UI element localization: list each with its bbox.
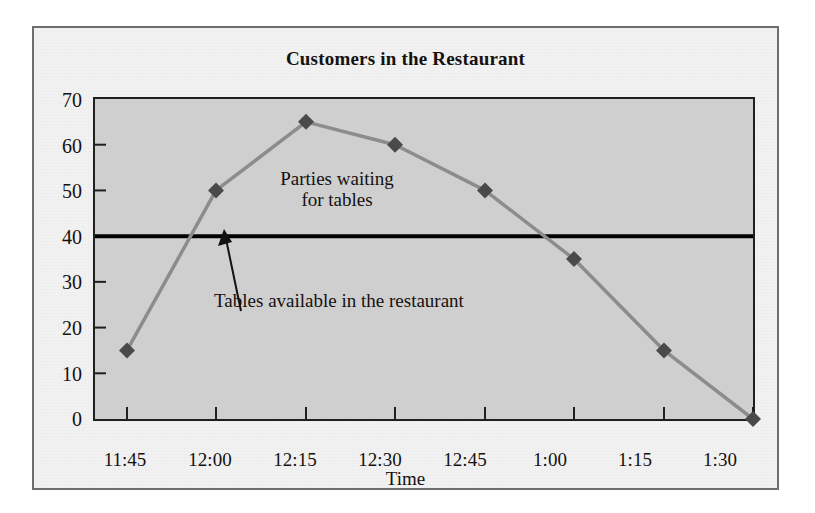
y-tick-label-70: 70 xyxy=(38,90,82,110)
x-tick-label-7: 1:30 xyxy=(675,450,765,469)
y-tick-label-30: 30 xyxy=(38,272,82,292)
x-axis-tick-marks xyxy=(127,407,753,419)
y-tick-label-40: 40 xyxy=(38,227,82,247)
y-tick-label-10: 10 xyxy=(38,364,82,384)
x-tick-label-2: 12:15 xyxy=(250,450,340,469)
y-tick-label-50: 50 xyxy=(38,181,82,201)
x-tick-label-3: 12:30 xyxy=(335,450,425,469)
plot-svg xyxy=(95,99,753,419)
annotation-threshold-label: Tables available in the restaurant xyxy=(174,290,504,311)
x-tick-label-5: 1:00 xyxy=(505,450,595,469)
series-marker-group xyxy=(119,114,761,427)
annotation-series-label: Parties waiting for tables xyxy=(232,168,442,211)
y-tick-label-60: 60 xyxy=(38,136,82,156)
x-tick-label-6: 1:15 xyxy=(590,450,680,469)
x-tick-label-1: 12:00 xyxy=(165,450,255,469)
x-tick-label-4: 12:45 xyxy=(420,450,510,469)
x-axis-title: Time xyxy=(34,468,777,490)
x-tick-label-0: 11:45 xyxy=(80,450,170,469)
chart-title: Customers in the Restaurant xyxy=(34,48,777,70)
plot-area xyxy=(93,97,755,421)
chart-figure: Customers in the Restaurant 70 60 50 40 … xyxy=(32,26,779,490)
y-tick-label-0: 0 xyxy=(38,409,82,429)
y-tick-label-20: 20 xyxy=(38,318,82,338)
y-axis-tick-marks xyxy=(95,145,106,374)
series-line-group xyxy=(127,122,753,419)
